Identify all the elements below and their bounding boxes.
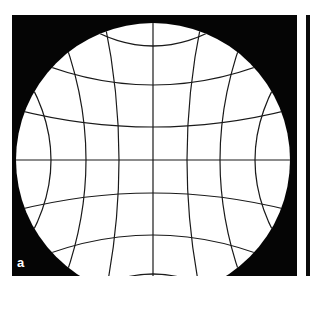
panel-label: a [17,256,24,270]
distortion-grid-diagram [12,15,297,276]
adjacent-panel-edge [306,15,310,276]
figure-panel: a [12,15,297,276]
